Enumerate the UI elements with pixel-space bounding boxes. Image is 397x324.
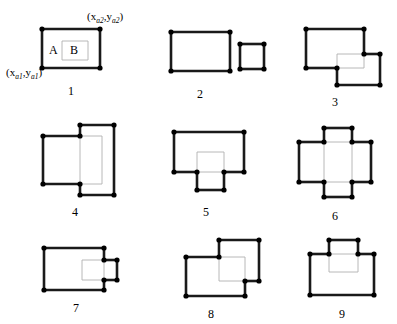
panel-8-intersection-1 [216, 254, 221, 259]
panel-4-rect-b-vertex-0 [77, 122, 82, 127]
panel-3-rect-b-vertex-1 [377, 51, 382, 56]
panel-2-rect-b-vertex-3 [237, 66, 242, 71]
panel-caption-5: 5 [196, 206, 216, 218]
panel-7-rect-b-vertex-1 [114, 257, 119, 262]
corner-max-close: ) [119, 10, 123, 22]
panel-4-intersection-1 [77, 181, 82, 186]
panel-caption-8: 8 [201, 308, 221, 320]
panel-3-rect-a-vertex-0 [303, 26, 308, 31]
panel-2-rect-a-vertex-2 [227, 68, 232, 73]
panel-6-rect-b-vertex-3 [321, 194, 326, 199]
panel-6-rect-b-vertex-2 [349, 194, 354, 199]
panel-8-rect-a-vertex-0 [183, 254, 188, 259]
panels-canvas [0, 0, 397, 324]
panel-8-rect-a-vertex-2 [242, 293, 247, 298]
corner-min-mid: ,y [23, 66, 31, 78]
corner-min-close: ) [38, 66, 42, 78]
panel-7-rect-a-vertex-3 [41, 287, 46, 292]
panel-9-rect-a-vertex-2 [371, 292, 376, 297]
panel-7-intersection-1 [101, 277, 106, 282]
panel-5-intersection-1 [221, 169, 226, 174]
panel-1-rect-a-vertex-0 [39, 26, 44, 31]
corner-max-open: (x [87, 10, 96, 22]
panel-6-rect-a-vertex-2 [368, 179, 373, 184]
panel-caption-9: 9 [332, 308, 352, 320]
panel-6-intersection-2 [349, 139, 354, 144]
panel-6-rect-b-vertex-1 [349, 125, 354, 130]
panel-9-intersection-0 [326, 251, 331, 256]
corner-min-coordinate-label: (xa1,ya1) [6, 66, 42, 81]
panel-4-rect-b-vertex-2 [111, 192, 116, 197]
panel-3-rect-a-vertex-1 [361, 26, 366, 31]
panel-5-rect-a-vertex-3 [171, 169, 176, 174]
panel-8-rect-b-vertex-2 [256, 278, 261, 283]
panel-8-intersection-0 [242, 278, 247, 283]
panel-9-rect-a-vertex-0 [307, 251, 312, 256]
panel-3-rect-b-vertex-2 [377, 82, 382, 87]
panel-4-intersection-0 [77, 133, 82, 138]
corner-min-open: (x [6, 66, 15, 78]
panel-3-intersection-1 [334, 65, 339, 70]
corner-max-coordinate-label: (xa2,ya2) [87, 10, 123, 25]
panel-1-rect-a-vertex-2 [97, 65, 102, 70]
panel-2-rect-a-vertex-1 [227, 29, 232, 34]
panel-3-intersection-0 [361, 51, 366, 56]
panel-5-intersection-0 [194, 169, 199, 174]
panel-4-rect-a-vertex-3 [40, 181, 45, 186]
panel-3-rect-a-vertex-3 [303, 65, 308, 70]
panel-caption-3: 3 [325, 96, 345, 108]
rect-b-label: B [70, 43, 78, 58]
panel-4-rect-b-vertex-1 [111, 122, 116, 127]
panel-5-rect-b-vertex-3 [194, 187, 199, 192]
panel-6-rect-a-vertex-3 [296, 179, 301, 184]
rect-a-label: A [49, 43, 58, 58]
panel-6-rect-a-vertex-1 [368, 139, 373, 144]
panel-caption-6: 6 [325, 210, 345, 222]
panel-8-rect-b-vertex-1 [256, 237, 261, 242]
panel-5-rect-a-vertex-2 [241, 169, 246, 174]
panel-9-rect-a-vertex-3 [307, 292, 312, 297]
panel-2-rect-a-vertex-3 [168, 68, 173, 73]
panel-caption-7: 7 [66, 302, 86, 314]
panel-7-intersection-0 [101, 257, 106, 262]
panel-2-rect-a-vertex-0 [168, 29, 173, 34]
panel-4-rect-a-vertex-0 [40, 133, 45, 138]
panel-2-rect-b-vertex-0 [237, 41, 242, 46]
panel-caption-2: 2 [190, 88, 210, 100]
panel-6-intersection-3 [349, 179, 354, 184]
panel-2-rect-b-vertex-2 [261, 66, 266, 71]
rectangle-relations-figure: (xa2,ya2) (xa1,ya1) A B 123456789 [0, 0, 397, 324]
corner-min-sub-x: a1 [15, 72, 23, 81]
panel-6-rect-a-vertex-0 [296, 139, 301, 144]
panel-9-rect-b-vertex-0 [326, 237, 331, 242]
panel-6-intersection-1 [321, 179, 326, 184]
panel-6-rect-b-vertex-0 [321, 125, 326, 130]
panel-9-rect-a-vertex-1 [371, 251, 376, 256]
panel-8-rect-b-vertex-0 [216, 237, 221, 242]
panel-2-rect-b-vertex-1 [261, 41, 266, 46]
panel-7-rect-a-vertex-1 [101, 245, 106, 250]
panel-4-rect-b-vertex-3 [77, 192, 82, 197]
panel-7-rect-a-vertex-2 [101, 287, 106, 292]
panel-6-intersection-0 [321, 139, 326, 144]
corner-max-sub-x: a2 [96, 16, 104, 25]
panel-9-rect-b-vertex-1 [355, 237, 360, 242]
panel-3-rect-b-vertex-3 [334, 82, 339, 87]
panel-9-intersection-1 [355, 251, 360, 256]
panel-5-rect-b-vertex-2 [221, 187, 226, 192]
panel-caption-1: 1 [61, 85, 81, 97]
panel-1-rect-a-vertex-1 [97, 26, 102, 31]
panel-caption-4: 4 [65, 206, 85, 218]
panel-5-rect-a-vertex-0 [171, 129, 176, 134]
panel-7-rect-b-vertex-2 [114, 277, 119, 282]
panel-7-rect-a-vertex-0 [41, 245, 46, 250]
corner-max-mid: ,y [104, 10, 112, 22]
panel-5-rect-a-vertex-1 [241, 129, 246, 134]
panel-8-rect-a-vertex-3 [183, 293, 188, 298]
